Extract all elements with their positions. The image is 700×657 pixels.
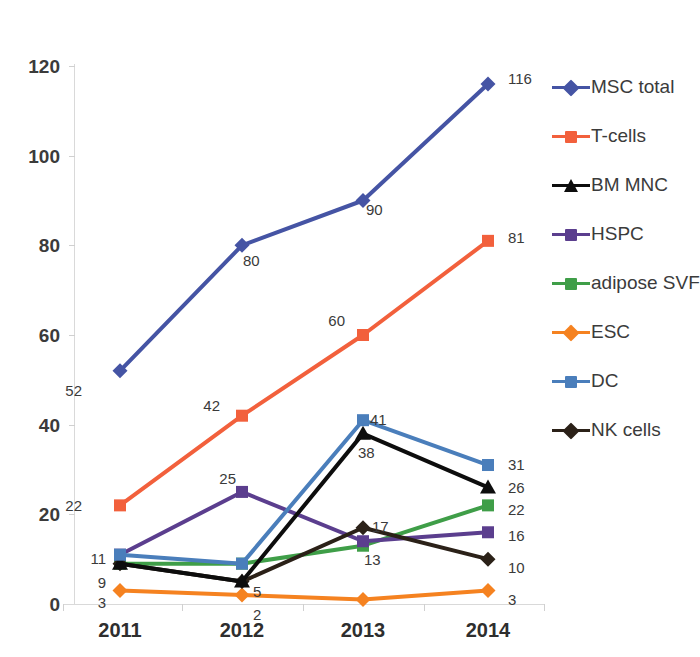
data-point-label: 22 — [508, 502, 525, 517]
legend-item-bm-mnc[interactable]: BM MNC — [552, 160, 680, 209]
data-point-label: 52 — [42, 383, 82, 398]
data-point-label: 2 — [253, 607, 261, 622]
data-point-label: 26 — [508, 480, 525, 495]
legend-item-label: NK cells — [591, 420, 661, 439]
data-point-square — [482, 499, 494, 511]
data-point-label: 10 — [508, 560, 525, 575]
series-line — [120, 84, 488, 371]
legend-marker — [563, 422, 580, 439]
data-point-square — [357, 414, 369, 426]
legend-marker — [565, 376, 577, 388]
data-point-label: 41 — [370, 412, 387, 427]
series-line — [120, 420, 488, 563]
data-point-diamond — [356, 520, 371, 535]
data-point-square — [482, 459, 494, 471]
legend-item-msc-total[interactable]: MSC total — [552, 62, 680, 111]
legend-swatch-square-icon — [552, 373, 590, 389]
legend-swatch-diamond-icon — [552, 79, 590, 95]
data-point-label: 116 — [508, 71, 532, 86]
data-point-label: 31 — [508, 457, 525, 472]
legend-swatch-diamond-icon — [552, 324, 590, 340]
data-point-label: 38 — [358, 445, 375, 460]
data-point-label: 80 — [243, 253, 260, 268]
data-point-label: 22 — [42, 498, 82, 513]
legend-item-label: T-cells — [591, 126, 646, 145]
data-point-label: 25 — [196, 471, 236, 486]
legend-marker — [563, 324, 580, 341]
data-point-square — [357, 535, 369, 547]
legend-item-label: adipose SVF — [591, 273, 700, 292]
data-point-label: 17 — [372, 519, 389, 534]
data-point-square — [236, 486, 248, 498]
series-msc-total — [113, 76, 496, 378]
data-point-label: 9 — [66, 575, 106, 590]
data-point-square — [114, 549, 126, 561]
legend-item-label: ESC — [591, 322, 630, 341]
legend-swatch-triangle-icon — [552, 177, 590, 193]
legend-marker — [565, 229, 577, 241]
legend-item-label: MSC total — [591, 77, 674, 96]
legend-item-nk-cells[interactable]: NK cells — [552, 405, 680, 454]
data-point-square — [482, 235, 494, 247]
legend-marker — [565, 278, 577, 290]
data-point-diamond — [235, 588, 250, 603]
data-point-diamond — [356, 592, 371, 607]
legend-item-t-cells[interactable]: T-cells — [552, 111, 680, 160]
data-point-square — [114, 499, 126, 511]
series-line — [120, 591, 488, 600]
legend-marker — [563, 79, 580, 96]
legend-item-adipose-svf[interactable]: adipose SVF — [552, 258, 680, 307]
legend-swatch-square-icon — [552, 275, 590, 291]
data-point-label: 81 — [508, 230, 525, 245]
data-point-label: 90 — [366, 202, 383, 217]
legend-item-hspc[interactable]: HSPC — [552, 209, 680, 258]
data-point-square — [357, 329, 369, 341]
legend-swatch-square-icon — [552, 128, 590, 144]
data-point-label: 13 — [364, 552, 381, 567]
legend-swatch-square-icon — [552, 226, 590, 242]
legend-item-label: DC — [591, 371, 618, 390]
data-point-label: 3 — [508, 592, 516, 607]
legend-item-label: BM MNC — [591, 175, 668, 194]
legend-marker — [565, 131, 577, 143]
data-point-label: 5 — [253, 584, 261, 599]
data-point-square — [236, 558, 248, 570]
data-point-label: 42 — [180, 398, 220, 413]
legend: MSC totalT-cellsBM MNCHSPCadipose SVFESC… — [552, 62, 680, 454]
legend-item-label: HSPC — [591, 224, 644, 243]
legend-swatch-diamond-icon — [552, 422, 590, 438]
data-point-square — [482, 526, 494, 538]
legend-item-esc[interactable]: ESC — [552, 307, 680, 356]
data-point-label: 11 — [66, 551, 106, 566]
legend-marker — [564, 179, 578, 192]
legend-item-dc[interactable]: DC — [552, 356, 680, 405]
series-esc — [113, 583, 496, 607]
data-point-diamond — [481, 552, 496, 567]
data-point-label: 3 — [66, 595, 106, 610]
data-point-diamond — [481, 583, 496, 598]
series-t-cells — [114, 235, 494, 512]
data-point-square — [236, 410, 248, 422]
data-point-diamond — [113, 583, 128, 598]
data-point-label: 16 — [508, 528, 525, 543]
data-point-label: 60 — [305, 313, 345, 328]
